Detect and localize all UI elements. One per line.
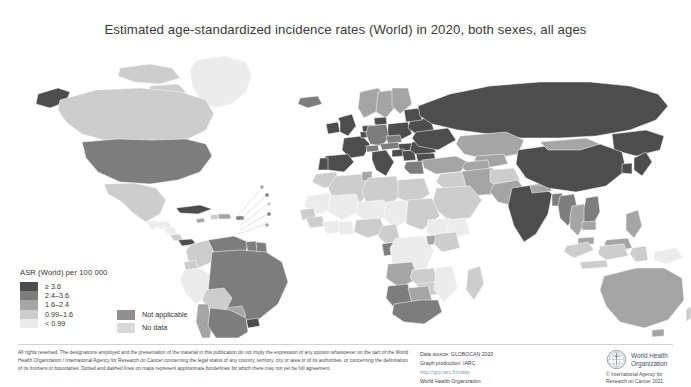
country-germany[interactable] [366, 124, 390, 146]
globocan-map-page: Estimated age-standardized incidence rat… [0, 0, 691, 387]
legend-swatch [20, 291, 38, 300]
country-tasmania[interactable] [652, 329, 664, 337]
country-mozambique[interactable] [434, 266, 458, 302]
country-haiti[interactable] [210, 214, 219, 220]
country-papua-new-guinea[interactable] [654, 248, 684, 264]
who-name-line1: World Health [631, 352, 668, 360]
country-thailand[interactable] [570, 204, 586, 236]
copyright-line2: Research on Cancer 2021 [606, 379, 688, 386]
legend-label: 2.4–3.6 [45, 291, 69, 300]
country-australia[interactable] [600, 268, 684, 328]
page-title: Estimated age-standardized incidence rat… [0, 22, 691, 37]
country-indonesia-java[interactable] [580, 260, 608, 269]
country-indonesia-kalimantan[interactable] [598, 244, 628, 260]
country-italy[interactable] [372, 150, 394, 176]
source-data: Data source: GLOBOCAN 2020 [420, 350, 590, 359]
source-organization: World Health Organization [420, 377, 590, 386]
island-marker[interactable] [260, 185, 264, 189]
legend-bins: ≥ 3.6 2.4–3.6 1.6–2.4 0.99–1.6 < 0.99 [20, 282, 73, 328]
legend-swatch [20, 319, 38, 328]
legend-swatch [20, 300, 38, 309]
legend-label: Not applicable [142, 310, 188, 319]
country-switzerland[interactable] [366, 145, 379, 152]
legend-swatch [117, 310, 135, 320]
country-jamaica[interactable] [196, 218, 205, 223]
island-marker[interactable] [265, 223, 269, 227]
country-cambodia[interactable] [582, 221, 596, 230]
legend-row[interactable]: ≥ 3.6 [20, 282, 73, 291]
country-philippines[interactable] [626, 210, 642, 238]
who-branding: World Health Organization © Internationa… [606, 349, 688, 386]
legend-swatch [20, 310, 38, 319]
legend-swatch [20, 282, 38, 291]
island-marker[interactable] [265, 193, 269, 197]
country-united-states[interactable] [82, 139, 212, 184]
who-name: World Health Organization [631, 352, 668, 367]
country-nicaragua[interactable] [164, 227, 177, 235]
country-madagascar[interactable] [466, 266, 484, 300]
legend-label: 1.6–2.4 [45, 300, 69, 309]
legend-row-no-data[interactable]: No data [117, 323, 188, 334]
island-marker[interactable] [267, 212, 271, 216]
country-ireland[interactable] [326, 122, 340, 134]
legend-label: 0.99–1.6 [45, 310, 73, 319]
legend-swatch [117, 323, 135, 333]
country-iceland[interactable] [298, 96, 322, 108]
country-russian-federation[interactable] [418, 82, 668, 138]
caribbean-leader-lines [236, 188, 268, 234]
country-kenya[interactable] [434, 232, 460, 252]
country-canada[interactable] [58, 88, 214, 144]
country-denmark[interactable] [374, 117, 387, 125]
country-new-zealand[interactable] [686, 306, 691, 322]
country-mexico[interactable] [104, 183, 166, 222]
map-legend: ASR (World) per 100 000 ≥ 3.6 2.4–3.6 1.… [20, 268, 188, 336]
country-indonesia-sumatra[interactable] [564, 242, 594, 258]
country-cuba[interactable] [176, 205, 212, 214]
copyright-line1: © International Agency for [606, 372, 688, 379]
legend-label: < 0.99 [45, 319, 65, 328]
copyright-text: © International Agency for Research on C… [606, 372, 688, 386]
country-indonesia-sulawesi[interactable] [630, 246, 648, 262]
country-india[interactable] [508, 184, 552, 242]
legend-row[interactable]: 1.6–2.4 [20, 300, 73, 309]
who-name-line2: Organization [631, 360, 668, 368]
footer-divider [18, 344, 673, 345]
source-url[interactable]: http://gco.iarc.fr/today [420, 368, 590, 377]
legend-row[interactable]: < 0.99 [20, 319, 73, 328]
legend-row-not-applicable[interactable]: Not applicable [117, 310, 188, 321]
legend-extra: Not applicable No data [117, 310, 188, 336]
legend-title: ASR (World) per 100 000 [20, 268, 188, 277]
country-republic-of-korea[interactable] [622, 163, 632, 174]
country-ghana[interactable] [338, 221, 354, 235]
source-block: Data source: GLOBOCAN 2020 Graph product… [420, 350, 590, 386]
country-uruguay[interactable] [246, 318, 260, 328]
legend-row[interactable]: 2.4–3.6 [20, 291, 73, 300]
country-canada-arctic[interactable] [118, 64, 180, 84]
who-logo-icon [606, 349, 627, 370]
country-greece[interactable] [404, 161, 424, 174]
country-mali[interactable] [328, 194, 362, 220]
country-south-africa[interactable] [392, 300, 442, 324]
island-marker[interactable] [267, 202, 271, 206]
source-production: Graph production: IARC [420, 359, 590, 368]
legend-label: No data [142, 323, 167, 332]
legend-label: ≥ 3.6 [45, 282, 61, 291]
country-dominican-republic[interactable] [218, 214, 231, 219]
country-china[interactable] [516, 144, 626, 192]
country-portugal[interactable] [318, 158, 328, 170]
disclaimer-text: All rights reserved. The designations em… [18, 349, 410, 373]
country-united-kingdom[interactable] [338, 114, 356, 136]
legend-row[interactable]: 0.99–1.6 [20, 310, 73, 319]
